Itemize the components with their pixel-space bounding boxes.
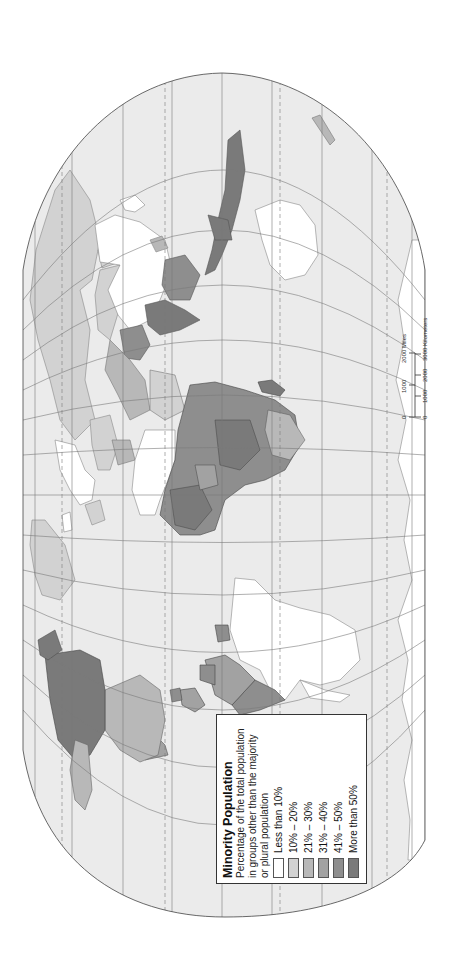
legend-label: 31% – 40% bbox=[318, 802, 330, 853]
legend-item: 41% – 50% bbox=[331, 720, 346, 878]
legend-item: Less than 10% bbox=[271, 720, 286, 878]
legend-swatch-lt10 bbox=[273, 858, 284, 878]
legend-label: 41% – 50% bbox=[333, 802, 345, 853]
legend-item: 31% – 40% bbox=[316, 720, 331, 878]
legend-subtitle-1: Percentage of the total population bbox=[235, 720, 247, 878]
scale-km-0: 0 bbox=[422, 416, 428, 419]
legend: Minority Population Percentage of the to… bbox=[216, 714, 367, 884]
scale-km-3000: 3000 Kilometers bbox=[422, 318, 428, 361]
legend-container: Minority Population Percentage of the to… bbox=[216, 714, 367, 884]
legend-item: More than 50% bbox=[346, 720, 361, 878]
legend-label: 21% – 30% bbox=[303, 802, 315, 853]
legend-subtitle-2: in groups other than the majority bbox=[247, 720, 259, 878]
legend-swatch-10-20 bbox=[288, 858, 299, 878]
scale-km-1000: 1000 bbox=[422, 390, 428, 403]
legend-label: More than 50% bbox=[348, 785, 360, 853]
legend-swatch-41-50 bbox=[333, 858, 344, 878]
legend-label: 10% – 20% bbox=[288, 802, 300, 853]
legend-label: Less than 10% bbox=[273, 787, 285, 853]
scale-miles-0: 0 bbox=[401, 416, 407, 419]
legend-subtitle-3: or plural population bbox=[259, 720, 271, 878]
region-venezuela bbox=[215, 625, 230, 642]
region-uk bbox=[62, 512, 72, 532]
scale-miles-2000: 2000 Miles bbox=[401, 334, 407, 363]
scale-km-2000: 2000 bbox=[422, 369, 428, 382]
scale-miles-1000: 1000 bbox=[401, 380, 407, 393]
legend-swatch-21-30 bbox=[303, 858, 314, 878]
scale-bar: 0 1000 2000 Miles 0 1000 2000 3000 Kilom… bbox=[395, 290, 435, 425]
legend-title: Minority Population bbox=[221, 720, 235, 878]
legend-swatch-31-40 bbox=[318, 858, 329, 878]
legend-item: 21% – 30% bbox=[301, 720, 316, 878]
legend-item: 10% – 20% bbox=[286, 720, 301, 878]
legend-swatch-gt50 bbox=[348, 858, 359, 878]
